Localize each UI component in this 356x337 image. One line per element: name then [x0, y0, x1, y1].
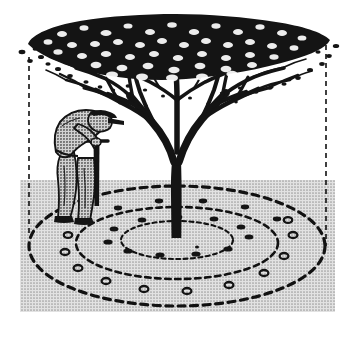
soil-sampling-illustration — [0, 0, 356, 337]
sample-hole — [114, 206, 122, 211]
sample-hole — [199, 199, 207, 204]
sample-hole — [195, 246, 199, 249]
sample-hole — [223, 246, 232, 251]
sample-hole — [245, 235, 254, 240]
tree-trunk — [171, 160, 182, 238]
sample-hole — [210, 217, 219, 222]
sample-hole — [103, 239, 112, 244]
sample-hole — [138, 218, 147, 223]
sample-hole — [155, 199, 163, 204]
person-back-shoe — [54, 216, 74, 223]
sample-hole — [155, 252, 164, 257]
person-front-leg — [77, 158, 95, 220]
sample-hole — [241, 205, 249, 210]
sample-hole — [191, 251, 200, 256]
sample-hole — [123, 248, 132, 253]
figure-root — [0, 0, 356, 337]
person-hand — [91, 138, 101, 146]
sample-hole — [110, 227, 119, 232]
sample-hole — [237, 225, 246, 230]
person-front-shoe — [74, 218, 94, 225]
sample-hole — [273, 217, 281, 222]
